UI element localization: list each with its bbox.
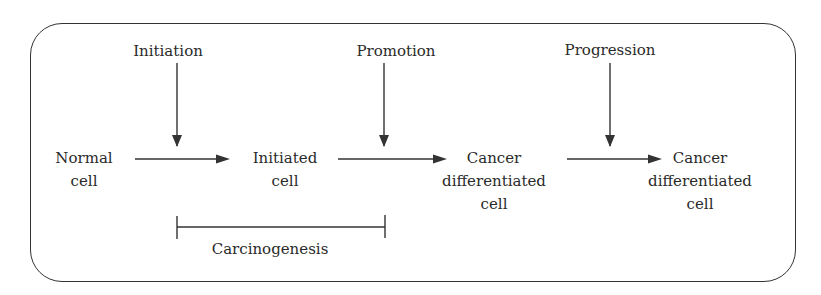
initiation-arrow [172,63,182,147]
carcinogenesis-bracket [177,215,385,239]
stage-label-initiation: Initiation [133,40,203,63]
stage-label-promotion: Promotion [356,40,435,63]
node-cancer-differentiated-cell-2: Cancer differentiated cell [648,147,752,216]
initiated-to-cancer-arrow [338,155,447,164]
progression-arrow [605,63,615,147]
node-initiated-cell: Initiated cell [253,147,318,193]
normal-to-initiated-arrow [135,155,230,164]
promotion-arrow [379,63,389,147]
node-normal-cell: Normal cell [55,147,112,193]
stage-label-progression: Progression [565,39,656,62]
node-cancer-differentiated-cell-1: Cancer differentiated cell [442,147,546,216]
carcinogenesis-label: Carcinogenesis [212,238,329,261]
